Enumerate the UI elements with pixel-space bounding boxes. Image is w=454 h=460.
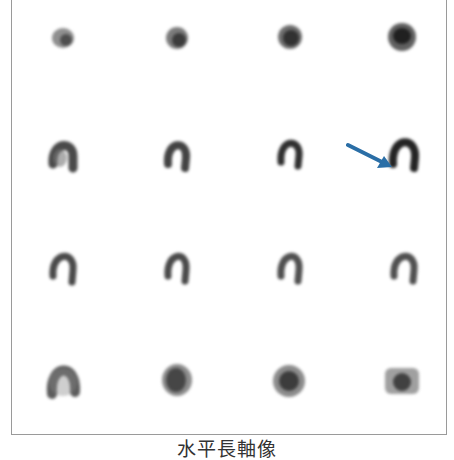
horseshoe-image xyxy=(373,234,433,294)
scan-panel-r4c3 xyxy=(259,348,319,408)
small-spot-image xyxy=(33,8,93,68)
scan-panel-r3c3 xyxy=(259,234,319,294)
horseshoe-image xyxy=(146,234,206,294)
scan-panel-r1c2 xyxy=(146,8,206,68)
scan-panel-r3c4 xyxy=(373,234,433,294)
arrow-indicator-icon xyxy=(346,142,398,172)
horseshoe-image xyxy=(259,120,319,180)
scan-panel-r2c1 xyxy=(33,122,93,182)
horseshoe-image xyxy=(259,234,319,294)
scan-grid xyxy=(11,0,447,435)
horseshoe-image xyxy=(33,122,93,182)
scan-panel-r4c2 xyxy=(146,348,206,408)
scan-panel-r1c3 xyxy=(259,6,319,66)
horseshoe-image xyxy=(146,122,206,182)
spot-image xyxy=(259,6,319,66)
horseshoe-wide-image xyxy=(33,348,93,408)
scan-panel-r2c3 xyxy=(259,120,319,180)
scan-panel-r3c2 xyxy=(146,234,206,294)
scan-panel-r1c1 xyxy=(33,8,93,68)
horseshoe-image xyxy=(33,234,93,294)
scan-panel-r4c4 xyxy=(371,348,431,408)
small-spot-image xyxy=(146,8,206,68)
filled-blob-image xyxy=(259,348,319,408)
scan-panel-r2c2 xyxy=(146,122,206,182)
scan-panel-r4c1 xyxy=(33,348,93,408)
spot-image xyxy=(371,6,431,66)
figure-caption: 水平長軸像 xyxy=(0,438,454,460)
filled-square-image xyxy=(371,348,431,408)
scan-panel-r3c1 xyxy=(33,234,93,294)
scan-panel-r1c4 xyxy=(371,6,431,66)
filled-blob-image xyxy=(146,348,206,408)
